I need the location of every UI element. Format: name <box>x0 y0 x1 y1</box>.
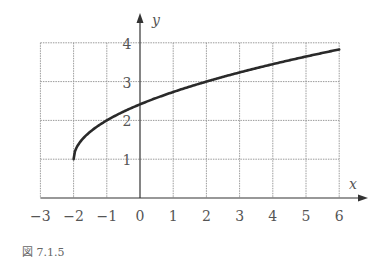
y-tick-label: 3 <box>123 75 132 91</box>
x-tick-label: 5 <box>302 208 311 224</box>
x-axis-label: x <box>349 176 357 192</box>
x-tick-label: −1 <box>96 208 117 224</box>
y-tick-label: 4 <box>123 36 132 52</box>
x-tick-label: 1 <box>169 208 178 224</box>
y-tick-label: 2 <box>123 113 132 129</box>
chart-plot: −3−2−101234561234xy <box>0 0 383 264</box>
x-tick-label: 2 <box>202 208 211 224</box>
x-tick-label: −3 <box>30 208 51 224</box>
y-axis-label: y <box>151 12 161 28</box>
y-tick-label: 1 <box>123 152 132 168</box>
y-axis-arrow-icon <box>137 13 144 23</box>
x-tick-label: 3 <box>235 208 244 224</box>
x-tick-label: 6 <box>335 208 344 224</box>
x-tick-label: 4 <box>268 208 277 224</box>
figure-caption: 図 7.1.5 <box>22 243 65 259</box>
x-axis-arrow-icon <box>358 195 368 202</box>
x-tick-label: −2 <box>63 208 84 224</box>
x-tick-label: 0 <box>136 208 145 224</box>
